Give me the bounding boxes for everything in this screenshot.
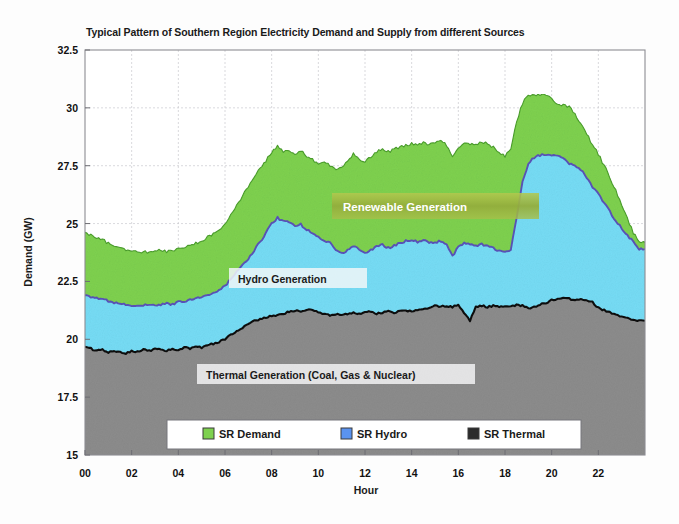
y-axis-label: Demand (GW) xyxy=(22,217,34,286)
x-tick-label: 22 xyxy=(592,467,604,479)
legend-label: SR Hydro xyxy=(357,428,407,440)
plot-area xyxy=(85,50,645,455)
x-tick-label: 18 xyxy=(499,467,511,479)
x-tick-label: 12 xyxy=(359,467,371,479)
y-tick-label: 20 xyxy=(66,333,78,345)
electricity-demand-supply-chart: Typical Pattern of Southern Region Elect… xyxy=(0,0,679,524)
chart-title: Typical Pattern of Southern Region Elect… xyxy=(86,26,525,38)
legend-swatch xyxy=(341,428,352,439)
x-tick-label: 04 xyxy=(172,467,184,479)
legend-label: SR Thermal xyxy=(484,428,545,440)
x-tick-label: 16 xyxy=(452,467,464,479)
x-tick-label: 08 xyxy=(266,467,278,479)
legend-items: SR DemandSR HydroSR Thermal xyxy=(203,428,545,440)
annotation-renewable: Renewable Generation xyxy=(332,193,539,219)
x-tick-label: 10 xyxy=(312,467,324,479)
annotation-thermal: Thermal Generation (Coal, Gas & Nuclear) xyxy=(197,364,475,384)
chart-figure: Typical Pattern of Southern Region Elect… xyxy=(0,0,679,524)
y-tick-label: 27.5 xyxy=(58,160,79,172)
x-tick-label: 02 xyxy=(126,467,138,479)
y-tick-label: 22.5 xyxy=(58,275,79,287)
annotation-renewable-text: Renewable Generation xyxy=(343,201,467,213)
y-tick-label: 25 xyxy=(66,218,78,230)
x-axis-label: Hour xyxy=(354,484,379,496)
x-tick-label: 20 xyxy=(546,467,558,479)
annotation-thermal-text: Thermal Generation (Coal, Gas & Nuclear) xyxy=(206,369,415,381)
x-tick-label: 14 xyxy=(406,467,418,479)
legend-item[interactable]: SR Hydro xyxy=(341,428,407,440)
annotation-hydro-text: Hydro Generation xyxy=(238,273,327,285)
x-tick-label: 06 xyxy=(219,467,231,479)
y-tick-label: 30 xyxy=(66,102,78,114)
y-tick-label: 32.5 xyxy=(58,44,79,56)
y-tick-label: 15 xyxy=(66,449,78,461)
y-tick-label: 17.5 xyxy=(58,391,79,403)
legend-swatch xyxy=(203,428,214,439)
legend-label: SR Demand xyxy=(219,428,281,440)
x-tick-label: 00 xyxy=(79,467,91,479)
annotation-hydro: Hydro Generation xyxy=(229,268,367,288)
legend-swatch xyxy=(468,428,479,439)
legend: SR DemandSR HydroSR Thermal xyxy=(167,420,581,449)
